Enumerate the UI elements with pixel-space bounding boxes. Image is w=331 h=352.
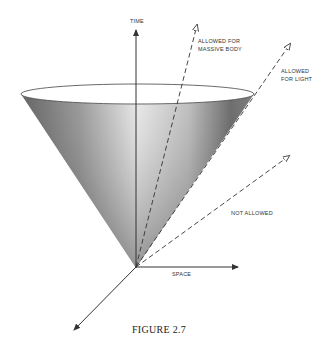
light-label: ALLOWED FOR LIGHT xyxy=(281,67,312,83)
light-cone xyxy=(21,84,254,268)
light-cone-diagram xyxy=(0,0,331,352)
not-allowed-label: NOT ALLOWED xyxy=(231,209,273,217)
time-axis-label: TIME xyxy=(130,17,144,25)
figure-caption: FIGURE 2.7 xyxy=(132,324,186,335)
depth-axis xyxy=(74,267,136,330)
massive-body-label: ALLOWED FOR MASSIVE BODY xyxy=(198,37,242,53)
space-axis-label: SPACE xyxy=(172,270,191,278)
